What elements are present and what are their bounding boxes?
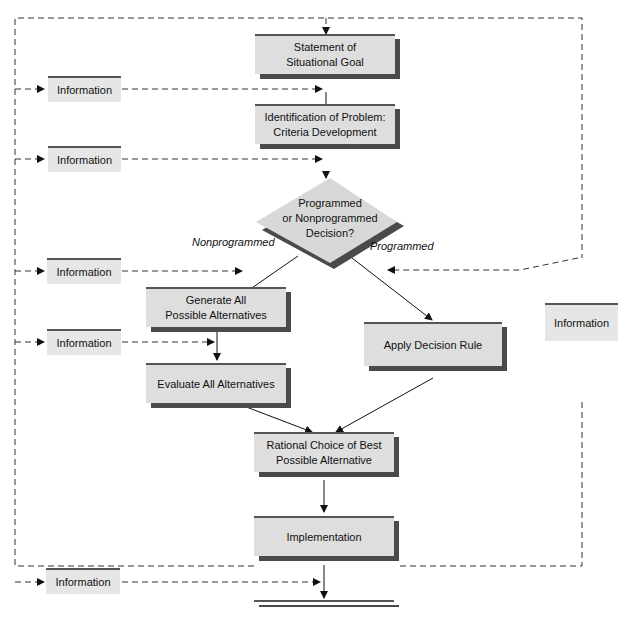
info-box: Information — [48, 146, 121, 172]
info-box: Information — [46, 568, 120, 594]
node-choice: Rational Choice of Best Possible Alterna… — [254, 432, 394, 472]
node-goal: Statement of Situational Goal — [255, 34, 395, 74]
info-box: Information — [47, 329, 121, 355]
info-box: Information — [545, 303, 618, 341]
node-evaluate: Evaluate All Alternatives — [146, 363, 286, 403]
info-box: Information — [48, 76, 121, 102]
node-generate: Generate All Possible Alternatives — [146, 287, 286, 327]
node-problem: Identification of Problem: Criteria Deve… — [255, 104, 395, 144]
edge-label-programmed: Programmed — [370, 240, 434, 252]
node-decision: Programmed or Nonprogrammed Decision? — [268, 196, 392, 241]
info-box: Information — [47, 258, 121, 284]
edge-label-nonprogrammed: Nonprogrammed — [192, 236, 275, 248]
node-implementation: Implementation — [254, 516, 394, 556]
node-rule: Apply Decision Rule — [364, 322, 502, 366]
